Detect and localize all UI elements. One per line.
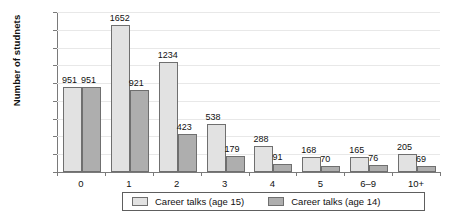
- bar-10+-age-14: [417, 166, 436, 172]
- y-tick-mark-1600: [53, 30, 57, 31]
- bar-0-age-15: [63, 87, 82, 172]
- x-tick-mark-0: [57, 172, 58, 176]
- bar-value-0-age-14: 951: [81, 76, 96, 85]
- x-tick-label-10+: 10+: [396, 179, 436, 189]
- x-tick-mark-5: [296, 172, 297, 176]
- bar-value-2-age-14: 423: [177, 123, 192, 132]
- legend-item-age-15: Career talks (age 15): [132, 196, 244, 207]
- x-tick-mark-6: [344, 172, 345, 176]
- bar-group-1: 1652921: [111, 12, 149, 172]
- bar-10+-age-15: [398, 154, 417, 172]
- bar-value-6–9-age-15: 165: [349, 146, 364, 155]
- bar-group-0: 951951: [63, 12, 101, 172]
- y-tick-mark-800: [53, 101, 57, 102]
- bar-value-1-age-14: 921: [129, 79, 144, 88]
- bar-value-3-age-15: 538: [206, 113, 221, 122]
- bar-chart: Number of studnets 180016001400120010008…: [0, 0, 461, 223]
- chart-legend: Career talks (age 15) Career talks (age …: [122, 192, 425, 211]
- bar-value-2-age-15: 1234: [158, 51, 178, 60]
- bar-value-5-age-14: 70: [320, 155, 330, 164]
- bar-4-age-14: [273, 164, 292, 172]
- bar-5-age-14: [321, 166, 340, 172]
- y-tick-mark-200: [53, 154, 57, 155]
- legend-label-age-14: Career talks (age 14): [291, 196, 380, 207]
- bar-value-4-age-15: 288: [253, 135, 268, 144]
- x-tick-label-3: 3: [205, 179, 245, 189]
- bar-2-age-14: [178, 134, 197, 172]
- y-tick-mark-1400: [53, 48, 57, 49]
- bar-3-age-14: [226, 156, 245, 172]
- bar-group-2: 1234423: [159, 12, 197, 172]
- plot-area: 9519511652921123442353817928891168701657…: [57, 12, 440, 172]
- bar-6–9-age-14: [369, 165, 388, 172]
- y-axis-title: Number of studnets: [11, 0, 22, 131]
- x-tick-mark-end: [440, 172, 441, 176]
- bar-2-age-15: [159, 62, 178, 172]
- bar-value-0-age-15: 951: [62, 76, 77, 85]
- x-tick-label-1: 1: [109, 179, 149, 189]
- bar-value-1-age-15: 1652: [110, 14, 130, 23]
- x-tick-label-6–9: 6–9: [348, 179, 388, 189]
- y-tick-mark-1200: [53, 65, 57, 66]
- y-tick-mark-1800: [53, 12, 57, 13]
- bar-value-10+-age-14: 69: [416, 155, 426, 164]
- x-tick-mark-1: [105, 172, 106, 176]
- legend-swatch-icon-age-14: [268, 197, 284, 206]
- bar-value-5-age-15: 168: [301, 146, 316, 155]
- bar-value-10+-age-15: 205: [397, 143, 412, 152]
- bar-6–9-age-15: [350, 157, 369, 172]
- bar-value-4-age-14: 91: [272, 153, 282, 162]
- legend-label-age-15: Career talks (age 15): [155, 196, 244, 207]
- bar-3-age-15: [207, 124, 226, 172]
- bar-group-6–9: 16576: [350, 12, 388, 172]
- bar-1-age-15: [111, 25, 130, 172]
- y-tick-mark-400: [53, 136, 57, 137]
- bar-value-6–9-age-14: 76: [368, 154, 378, 163]
- legend-swatch-icon-age-15: [132, 197, 148, 206]
- bar-group-5: 16870: [302, 12, 340, 172]
- bar-4-age-15: [254, 146, 273, 172]
- legend-item-age-14: Career talks (age 14): [268, 196, 380, 207]
- y-tick-mark-600: [53, 119, 57, 120]
- bar-group-4: 28891: [254, 12, 292, 172]
- x-tick-label-2: 2: [157, 179, 197, 189]
- x-tick-label-4: 4: [252, 179, 292, 189]
- x-tick-mark-4: [249, 172, 250, 176]
- x-tick-mark-3: [201, 172, 202, 176]
- x-tick-label-0: 0: [61, 179, 101, 189]
- bar-5-age-15: [302, 157, 321, 172]
- x-tick-label-5: 5: [300, 179, 340, 189]
- bar-1-age-14: [130, 90, 149, 172]
- x-tick-mark-7: [392, 172, 393, 176]
- bar-group-10+: 20569: [398, 12, 436, 172]
- x-tick-mark-2: [153, 172, 154, 176]
- bar-0-age-14: [82, 87, 101, 172]
- y-tick-mark-1000: [53, 83, 57, 84]
- bar-group-3: 538179: [207, 12, 245, 172]
- bar-value-3-age-14: 179: [225, 145, 240, 154]
